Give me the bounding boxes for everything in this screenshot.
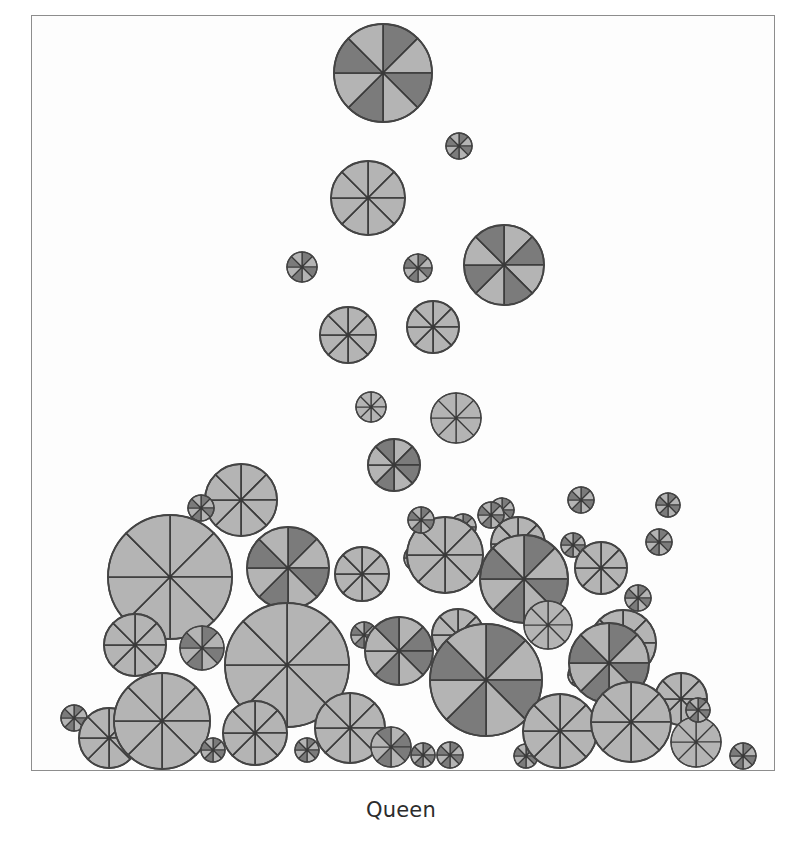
pie-glyph-marker xyxy=(404,254,432,282)
pie-glyph-marker xyxy=(188,495,214,521)
pie-glyph-marker xyxy=(335,547,389,601)
pie-glyph-marker xyxy=(575,542,627,594)
pie-glyph-marker xyxy=(411,743,435,767)
pie-glyph-marker xyxy=(656,493,680,517)
pie-glyph-marker xyxy=(287,252,317,282)
pie-glyph-marker xyxy=(371,727,411,767)
pie-glyph-marker xyxy=(104,614,166,676)
pie-glyph-figure: Queen xyxy=(0,0,802,842)
pie-glyph-marker xyxy=(437,742,463,768)
pie-glyph-marker xyxy=(356,392,386,422)
pie-glyph-marker xyxy=(646,529,672,555)
pie-glyph-marker xyxy=(568,487,594,513)
glyph-scatter-svg xyxy=(31,15,775,771)
pie-glyph-marker xyxy=(201,738,225,762)
plot-area xyxy=(31,15,775,771)
pie-glyph-marker xyxy=(114,673,210,769)
pie-glyph-marker xyxy=(365,617,433,685)
pie-glyph-marker xyxy=(180,626,224,670)
pie-glyph-marker xyxy=(331,161,405,235)
pie-glyph-marker xyxy=(407,301,459,353)
pie-glyph-marker xyxy=(523,694,597,768)
pie-glyph-marker xyxy=(223,701,287,765)
pie-glyph-marker xyxy=(334,24,432,122)
pie-glyph-marker xyxy=(464,225,544,305)
pie-glyph-marker xyxy=(591,682,671,762)
pie-glyph-marker xyxy=(524,601,572,649)
pie-glyph-marker xyxy=(446,133,472,159)
pie-glyph-marker xyxy=(320,307,376,363)
pie-glyph-marker xyxy=(625,585,651,611)
pie-glyph-marker xyxy=(431,393,481,443)
pie-glyph-marker xyxy=(295,738,319,762)
pie-glyph-marker xyxy=(686,698,710,722)
pie-glyph-marker xyxy=(247,527,329,609)
pie-glyph-marker xyxy=(368,439,420,491)
pie-glyph-marker xyxy=(730,743,756,769)
figure-caption: Queen xyxy=(0,798,802,822)
pie-glyph-marker xyxy=(408,507,434,533)
pie-glyph-marker xyxy=(205,464,277,536)
pie-glyph-marker xyxy=(671,717,721,767)
